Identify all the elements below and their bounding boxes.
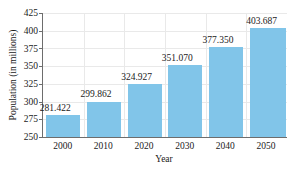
plot-area xyxy=(42,13,287,138)
y-tick-label: 325 xyxy=(0,80,38,90)
x-tick-label-2030: 2030 xyxy=(164,142,205,152)
y-tick-label: 425 xyxy=(0,9,38,19)
x-tick-label-2020: 2020 xyxy=(124,142,165,152)
y-tick-label: 300 xyxy=(0,98,38,108)
bar-value-2030: 351.070 xyxy=(157,54,197,64)
y-tick-label: 400 xyxy=(0,27,38,37)
gridline xyxy=(165,13,166,137)
bar-value-2050: 403.687 xyxy=(240,17,284,27)
bar-value-2000: 281.422 xyxy=(35,104,75,114)
y-tick-label: 250 xyxy=(0,133,38,143)
y-tick-label: 275 xyxy=(0,115,38,125)
y-axis-title: Population (in millions) xyxy=(8,5,18,145)
bar-2040[interactable] xyxy=(209,47,243,137)
bar-2030[interactable] xyxy=(168,65,202,137)
bar-value-2040: 377.350 xyxy=(198,36,238,46)
gridline xyxy=(206,13,207,137)
bar-value-2010: 299.862 xyxy=(76,90,116,100)
y-tick-label: 375 xyxy=(0,45,38,55)
gridline xyxy=(287,13,288,137)
bar-2050[interactable] xyxy=(250,28,286,137)
x-tick-label-2050: 2050 xyxy=(246,142,287,152)
x-tick-label-2040: 2040 xyxy=(205,142,246,152)
gridline xyxy=(84,13,85,137)
bar-chart: Population (in millions) 425 400 375 350… xyxy=(0,0,287,171)
bar-value-2020: 324.927 xyxy=(117,73,157,83)
y-tick-label: 350 xyxy=(0,62,38,72)
gridline xyxy=(246,13,247,137)
bar-2020[interactable] xyxy=(128,84,162,137)
x-tick-label-2010: 2010 xyxy=(83,142,124,152)
bar-2010[interactable] xyxy=(87,102,121,137)
x-axis-title: Year xyxy=(42,154,286,164)
x-tick-label-2000: 2000 xyxy=(42,142,83,152)
bar-2000[interactable] xyxy=(46,115,80,137)
